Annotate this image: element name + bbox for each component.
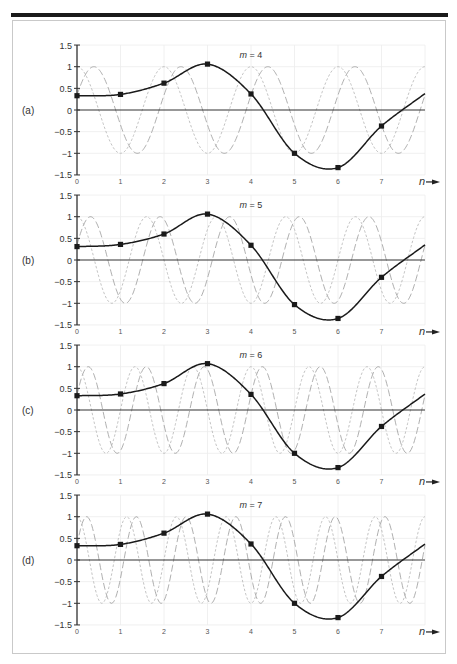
- m-value-label: m = 5: [240, 200, 263, 210]
- y-tick-label: 1: [67, 362, 72, 372]
- sample-marker: [205, 361, 210, 366]
- sample-marker: [205, 62, 210, 67]
- x-tick-label: 5: [293, 478, 297, 485]
- x-tick-label: 2: [162, 328, 166, 335]
- x-tick-label: 1: [119, 478, 123, 485]
- x-tick-label: 5: [293, 178, 297, 185]
- x-tick-label: 3: [206, 628, 210, 635]
- sample-marker: [118, 92, 123, 97]
- arrow-head-icon: [432, 179, 440, 184]
- sample-marker: [161, 231, 166, 236]
- x-tick-label: 6: [336, 328, 340, 335]
- sample-marker: [161, 81, 166, 86]
- panel-a: 1.510.50−0.5−1−1.501234567n(a)m = 4: [22, 41, 440, 187]
- x-tick-label: 1: [119, 328, 123, 335]
- x-tick-label: 4: [249, 478, 253, 485]
- y-tick-label: 0: [67, 256, 72, 266]
- sample-marker: [74, 244, 79, 249]
- sample-marker: [292, 601, 297, 606]
- sample-marker: [292, 302, 297, 307]
- panel-label: (a): [22, 105, 34, 116]
- sample-marker: [74, 93, 79, 98]
- x-tick-label: 4: [249, 628, 253, 635]
- y-tick-label: 1.5: [59, 341, 72, 351]
- y-tick-label: 0: [67, 106, 72, 116]
- sample-marker: [335, 465, 340, 470]
- x-tick-label: 0: [75, 328, 79, 335]
- x-tick-label: 4: [249, 328, 253, 335]
- x-tick-label: 2: [162, 478, 166, 485]
- x-tick-label: 6: [336, 478, 340, 485]
- panel-d: 1.510.50−0.5−1−1.501234567n(d)m = 7: [22, 491, 440, 637]
- sample-marker: [379, 424, 384, 429]
- y-tick-label: −1.5: [54, 470, 72, 480]
- sample-marker: [248, 392, 253, 397]
- sample-marker: [292, 451, 297, 456]
- x-tick-label: 0: [75, 628, 79, 635]
- y-tick-label: −0.5: [54, 127, 72, 137]
- panel-b: 1.510.50−0.5−1−1.501234567n(b)m = 5: [22, 191, 440, 337]
- x-tick-label: 0: [75, 178, 79, 185]
- sample-marker: [379, 275, 384, 280]
- sample-marker: [292, 151, 297, 156]
- y-tick-label: −0.5: [54, 427, 72, 437]
- x-tick-label: 3: [206, 178, 210, 185]
- y-tick-label: 1: [67, 512, 72, 522]
- y-tick-label: −0.5: [54, 577, 72, 587]
- x-tick-label: 6: [336, 178, 340, 185]
- y-tick-label: −0.5: [54, 277, 72, 287]
- x-tick-label: 7: [380, 478, 384, 485]
- y-tick-label: 0.5: [59, 384, 72, 394]
- sample-marker: [161, 381, 166, 386]
- sample-marker: [161, 531, 166, 536]
- x-tick-label: 2: [162, 178, 166, 185]
- x-tick-label: 7: [380, 178, 384, 185]
- x-axis-label: n: [419, 625, 425, 637]
- panel-label: (c): [22, 405, 34, 416]
- y-tick-label: −1.5: [54, 170, 72, 180]
- x-tick-label: 1: [119, 178, 123, 185]
- y-tick-label: 1: [67, 62, 72, 72]
- x-axis-label: n: [419, 475, 425, 487]
- y-tick-label: 0: [67, 406, 72, 416]
- sample-marker: [248, 541, 253, 546]
- sample-marker: [379, 574, 384, 579]
- x-tick-label: 5: [293, 628, 297, 635]
- x-tick-label: 0: [75, 478, 79, 485]
- x-tick-label: 5: [293, 328, 297, 335]
- y-tick-label: −1: [62, 149, 72, 159]
- y-tick-label: 1: [67, 212, 72, 222]
- sample-marker: [74, 543, 79, 548]
- y-tick-label: 0.5: [59, 84, 72, 94]
- x-axis-label: n: [419, 325, 425, 337]
- m-value-label: m = 7: [240, 500, 263, 510]
- x-tick-label: 4: [249, 178, 253, 185]
- sample-marker: [74, 393, 79, 398]
- x-tick-label: 3: [206, 328, 210, 335]
- y-tick-label: 0.5: [59, 234, 72, 244]
- panel-label: (b): [22, 255, 34, 266]
- y-tick-label: −1.5: [54, 620, 72, 630]
- x-tick-label: 3: [206, 478, 210, 485]
- y-tick-label: 1.5: [59, 41, 72, 51]
- y-tick-label: −1.5: [54, 320, 72, 330]
- sample-marker: [205, 212, 210, 217]
- sample-marker: [118, 242, 123, 247]
- sample-marker: [118, 542, 123, 547]
- x-tick-label: 7: [380, 628, 384, 635]
- panel-label: (d): [22, 555, 34, 566]
- x-tick-label: 2: [162, 628, 166, 635]
- y-tick-label: −1: [62, 599, 72, 609]
- sample-marker: [335, 316, 340, 321]
- sample-marker: [248, 91, 253, 96]
- sampling-figure: 1.510.50−0.5−1−1.501234567n(a)m = 41.510…: [0, 0, 457, 664]
- y-tick-label: −1: [62, 449, 72, 459]
- sample-marker: [118, 391, 123, 396]
- m-value-label: m = 6: [240, 350, 263, 360]
- x-tick-label: 1: [119, 628, 123, 635]
- panel-c: 1.510.50−0.5−1−1.501234567n(c)m = 6: [22, 341, 440, 487]
- y-tick-label: 1.5: [59, 491, 72, 501]
- y-tick-label: 1.5: [59, 191, 72, 201]
- x-tick-label: 7: [380, 328, 384, 335]
- sample-marker: [335, 615, 340, 620]
